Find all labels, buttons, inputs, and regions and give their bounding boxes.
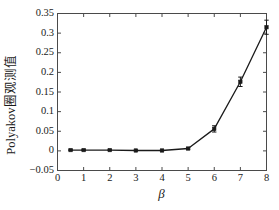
x-tick-label-0: 0	[48, 172, 68, 183]
data-point-2	[108, 148, 112, 151]
x-tick-label-6: 6	[204, 172, 224, 183]
marker-7	[239, 80, 242, 83]
x-tick-label-7: 7	[230, 172, 250, 183]
data-point-0	[68, 148, 72, 151]
data-line	[71, 27, 267, 150]
marker-5	[186, 147, 189, 150]
data-point-4	[160, 149, 164, 152]
x-axis-title: β	[57, 186, 266, 202]
figure: Polyakov圈观测值 −0.0500.050.10.150.20.250.3…	[0, 0, 279, 210]
x-tick-label-5: 5	[178, 172, 198, 183]
marker-3	[134, 149, 137, 152]
data-point-1	[81, 148, 85, 151]
data-point-8	[264, 20, 268, 34]
x-tick-label-3: 3	[126, 172, 146, 183]
marker-6	[213, 127, 216, 130]
data-point-3	[134, 149, 138, 152]
marker-4	[160, 149, 163, 152]
x-tick-label-1: 1	[74, 172, 94, 183]
x-tick-label-8: 8	[257, 172, 277, 183]
marker-8	[265, 26, 268, 29]
marker-1	[82, 148, 85, 151]
x-tick-label-2: 2	[100, 172, 120, 183]
marker-0	[69, 148, 72, 151]
marker-2	[108, 148, 111, 151]
data-point-5	[186, 147, 190, 150]
x-tick-label-4: 4	[152, 172, 172, 183]
